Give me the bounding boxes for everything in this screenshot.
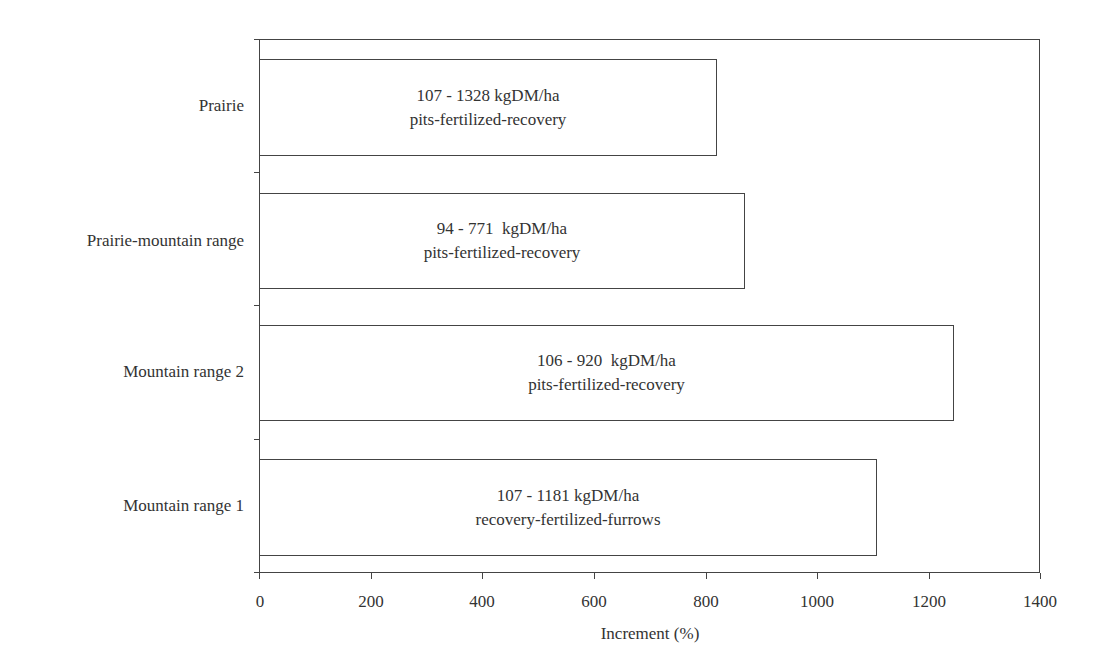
x-tick — [594, 573, 595, 579]
x-tick — [1040, 573, 1041, 579]
x-axis-title: Increment (%) — [601, 624, 700, 644]
y-tick — [254, 39, 259, 40]
bar-mountain-range-1: 107 - 1181 kgDM/ha recovery-fertilized-f… — [259, 459, 877, 556]
x-tick-label: 1400 — [1023, 592, 1057, 612]
x-tick-label: 200 — [358, 592, 384, 612]
category-label-prairie: Prairie — [199, 96, 244, 116]
bar-prairie-mountain-range: 94 - 771 kgDM/ha pits-fertilized-recover… — [259, 193, 745, 289]
bar-annotation-line2: pits-fertilized-recovery — [424, 241, 581, 265]
x-tick — [817, 573, 818, 579]
bar-annotation-line2: pits-fertilized-recovery — [410, 108, 567, 132]
y-tick — [254, 305, 259, 306]
y-tick — [254, 439, 259, 440]
x-tick-label: 1000 — [800, 592, 834, 612]
x-tick — [706, 573, 707, 579]
bar-annotation-line1: 107 - 1328 kgDM/ha — [416, 84, 559, 108]
x-tick — [371, 573, 372, 579]
bar-mountain-range-2: 106 - 920 kgDM/ha pits-fertilized-recove… — [259, 325, 954, 421]
bar-annotation-line1: 94 - 771 kgDM/ha — [437, 217, 567, 241]
bar-annotation-line1: 107 - 1181 kgDM/ha — [497, 484, 639, 508]
x-tick-label: 600 — [581, 592, 607, 612]
x-tick-label: 800 — [693, 592, 719, 612]
y-tick — [254, 172, 259, 173]
bar-annotation-line2: recovery-fertilized-furrows — [475, 508, 660, 532]
bar-annotation-line1: 106 - 920 kgDM/ha — [537, 349, 676, 373]
x-tick-label: 0 — [256, 592, 265, 612]
x-tick — [482, 573, 483, 579]
category-label-mountain-range-2: Mountain range 2 — [123, 362, 244, 382]
x-tick — [259, 573, 260, 579]
category-label-prairie-mountain-range: Prairie-mountain range — [87, 231, 244, 251]
bar-prairie: 107 - 1328 kgDM/ha pits-fertilized-recov… — [259, 59, 717, 156]
category-label-mountain-range-1: Mountain range 1 — [123, 496, 244, 516]
x-tick — [929, 573, 930, 579]
x-tick-label: 400 — [469, 592, 495, 612]
bar-annotation-line2: pits-fertilized-recovery — [528, 373, 685, 397]
x-tick-label: 1200 — [912, 592, 946, 612]
